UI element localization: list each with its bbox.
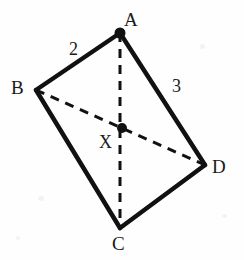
side-CD xyxy=(120,165,205,228)
vertex-label-c: C xyxy=(112,234,125,253)
side-length-label-ab: 2 xyxy=(69,40,78,58)
diagram-canvas xyxy=(0,0,244,260)
vertex-label-a: A xyxy=(124,10,138,29)
side-BC xyxy=(36,90,120,228)
geometry-figure: A B C D X 2 3 xyxy=(0,0,244,260)
side-AB xyxy=(36,33,120,90)
intersection-dot-X xyxy=(117,123,127,133)
vertex-label-b: B xyxy=(11,78,24,97)
vertex-label-d: D xyxy=(212,157,226,176)
point-label-x: X xyxy=(99,133,112,151)
side-length-label-ad: 3 xyxy=(172,77,181,95)
side-AD xyxy=(120,33,205,165)
